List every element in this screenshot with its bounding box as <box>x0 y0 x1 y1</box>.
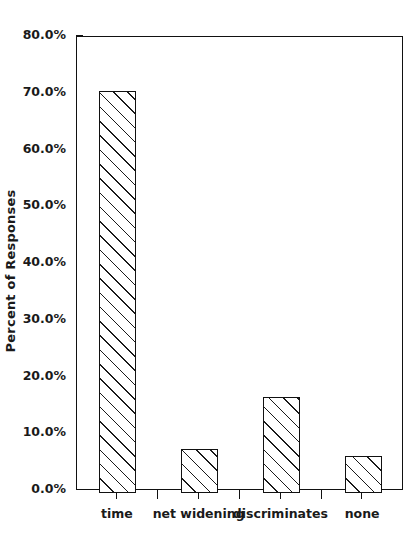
x-axis-tick-mark <box>321 490 322 499</box>
bar-net-widening <box>181 449 218 493</box>
y-axis-tick-label: 60.0% <box>0 141 70 156</box>
bar-chart-figure: Percent of Responses 0.0%10.0%20.0%30.0%… <box>0 0 420 542</box>
y-axis-tick-label: 70.0% <box>0 84 70 99</box>
bar-none <box>345 456 382 492</box>
plot-area <box>76 36 403 490</box>
x-axis-category-label: discriminates <box>233 506 328 521</box>
x-axis-category-label: none <box>345 506 380 521</box>
y-axis-tick-label: 40.0% <box>0 254 70 269</box>
x-axis-category-label: net widening <box>153 506 245 521</box>
y-axis-tick-label: 30.0% <box>0 311 70 326</box>
y-axis-tick-label: 80.0% <box>0 27 70 42</box>
bar-time <box>99 91 136 493</box>
y-axis-tick-label: 10.0% <box>0 424 70 439</box>
x-axis-tick-mark <box>239 490 240 499</box>
y-axis-tick-label: 0.0% <box>0 481 70 496</box>
x-axis-category-label: time <box>101 506 133 521</box>
y-axis-tick-label: 20.0% <box>0 368 70 383</box>
y-axis-title: Percent of Responses <box>0 0 22 542</box>
bar-discriminates <box>263 397 300 493</box>
y-axis-tick-label: 50.0% <box>0 197 70 212</box>
x-axis-tick-mark <box>157 490 158 499</box>
